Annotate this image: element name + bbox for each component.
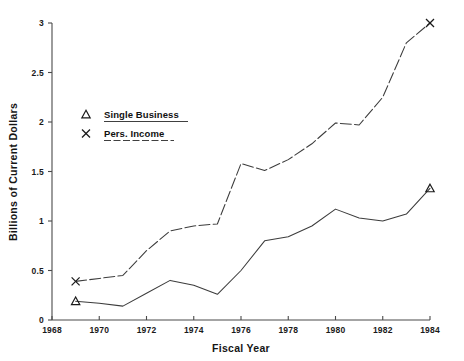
x-tick-label: 1980 — [326, 325, 346, 335]
x-tick-label: 1976 — [231, 325, 251, 335]
legend-item-label: Single Business — [104, 109, 179, 120]
chart-background — [0, 0, 464, 361]
y-tick-label: 1.5 — [32, 167, 44, 177]
line-chart: 00.511.522.53 19681970197219741976197819… — [0, 0, 464, 361]
y-axis-title: Billions of Current Dollars — [7, 103, 19, 241]
y-tick-label: 0 — [39, 315, 44, 325]
x-axis-title: Fiscal Year — [212, 342, 270, 354]
y-tick-label: 1 — [39, 216, 44, 226]
y-tick-label: 0.5 — [32, 266, 44, 276]
y-tick-label: 2.5 — [32, 68, 44, 78]
x-tick-label: 1972 — [137, 325, 157, 335]
chart-container: 00.511.522.53 19681970197219741976197819… — [0, 0, 464, 361]
y-tick-label: 3 — [39, 18, 44, 28]
y-tick-label: 2 — [39, 117, 44, 127]
x-tick-label: 1974 — [184, 325, 204, 335]
x-tick-label: 1984 — [420, 325, 440, 335]
x-tick-label: 1982 — [373, 325, 393, 335]
x-tick-label: 1968 — [42, 325, 62, 335]
legend-item-label: Pers. Income — [104, 128, 164, 139]
x-tick-label: 1978 — [278, 325, 298, 335]
x-tick-label: 1970 — [89, 325, 109, 335]
